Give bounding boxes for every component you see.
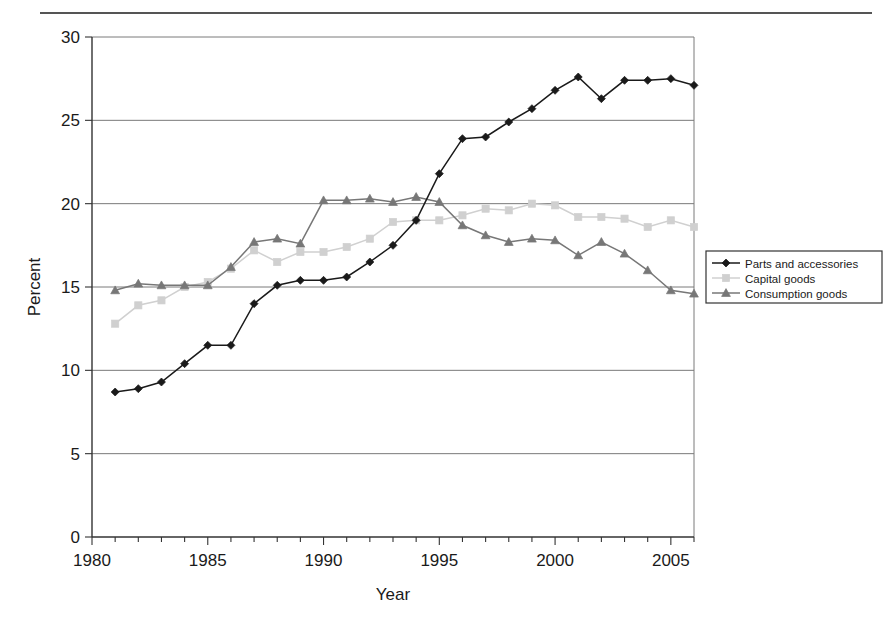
legend-label: Parts and accessories <box>745 258 858 270</box>
data-point-capital-goods <box>482 205 489 212</box>
x-tick-label: 1985 <box>189 551 227 570</box>
data-point-capital-goods <box>135 302 142 309</box>
data-point-consumption-goods <box>273 234 282 242</box>
data-point-parts-and-accessories <box>644 76 652 84</box>
data-point-capital-goods <box>343 243 350 250</box>
data-point-consumption-goods <box>620 249 629 257</box>
data-point-consumption-goods <box>597 238 606 246</box>
data-point-parts-and-accessories <box>690 81 698 89</box>
series-line-capital-goods <box>115 204 694 324</box>
data-point-parts-and-accessories <box>111 388 119 396</box>
data-point-parts-and-accessories <box>458 135 466 143</box>
data-point-capital-goods <box>505 207 512 214</box>
x-tick-label: 2000 <box>536 551 574 570</box>
data-point-capital-goods <box>112 320 119 327</box>
chart-page: 051015202530Percent198019851990199520002… <box>0 0 896 631</box>
y-tick-label: 0 <box>71 528 80 547</box>
x-tick-label: 1990 <box>305 551 343 570</box>
data-point-capital-goods <box>158 297 165 304</box>
data-point-parts-and-accessories <box>343 273 351 281</box>
data-point-consumption-goods <box>574 251 583 259</box>
data-point-capital-goods <box>274 258 281 265</box>
y-axis-title: Percent <box>25 257 44 316</box>
data-point-parts-and-accessories <box>320 276 328 284</box>
data-point-capital-goods <box>598 213 605 220</box>
data-point-capital-goods <box>366 235 373 242</box>
data-point-capital-goods <box>690 223 697 230</box>
data-point-capital-goods <box>250 247 257 254</box>
data-point-parts-and-accessories <box>667 75 675 83</box>
y-tick-label: 5 <box>71 445 80 464</box>
data-point-parts-and-accessories <box>435 170 443 178</box>
data-point-consumption-goods <box>643 266 652 274</box>
data-point-parts-and-accessories <box>227 341 235 349</box>
line-chart: 051015202530Percent198019851990199520002… <box>0 0 896 631</box>
data-point-consumption-goods <box>412 193 421 201</box>
y-tick-label: 20 <box>61 195 80 214</box>
data-point-capital-goods <box>621 215 628 222</box>
x-tick-label: 1980 <box>73 551 111 570</box>
y-tick-label: 10 <box>61 361 80 380</box>
chart-svg: 051015202530Percent198019851990199520002… <box>0 0 896 631</box>
legend-label: Consumption goods <box>745 288 848 300</box>
series-line-parts-and-accessories <box>115 77 694 392</box>
series-line-consumption-goods <box>115 197 694 294</box>
y-tick-label: 15 <box>61 278 80 297</box>
data-point-capital-goods <box>551 202 558 209</box>
data-point-parts-and-accessories <box>134 385 142 393</box>
y-tick-label: 25 <box>61 111 80 130</box>
data-point-capital-goods <box>644 223 651 230</box>
data-point-capital-goods <box>389 218 396 225</box>
data-point-parts-and-accessories <box>296 276 304 284</box>
data-point-capital-goods <box>575 213 582 220</box>
data-point-consumption-goods <box>481 231 490 239</box>
data-point-capital-goods <box>667 217 674 224</box>
y-tick-label: 30 <box>61 28 80 47</box>
x-axis-title: Year <box>376 585 411 604</box>
data-point-parts-and-accessories <box>482 133 490 141</box>
data-point-capital-goods <box>297 248 304 255</box>
x-tick-label: 1995 <box>420 551 458 570</box>
legend-label: Capital goods <box>745 273 816 285</box>
x-tick-label: 2005 <box>652 551 690 570</box>
data-point-capital-goods <box>459 212 466 219</box>
data-point-capital-goods <box>320 248 327 255</box>
data-point-capital-goods <box>528 200 535 207</box>
data-point-capital-goods <box>436 217 443 224</box>
legend-marker-square <box>722 274 729 281</box>
data-point-parts-and-accessories <box>505 118 513 126</box>
